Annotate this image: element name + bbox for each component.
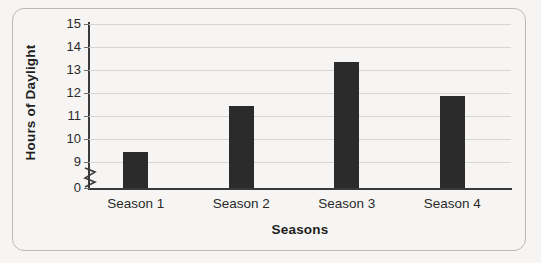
y-tick-label: 0 bbox=[55, 181, 81, 194]
x-tick-label: Season 2 bbox=[186, 196, 296, 212]
bar bbox=[229, 106, 254, 188]
y-tick-label: 15 bbox=[55, 17, 81, 30]
x-axis-title: Seasons bbox=[89, 222, 511, 237]
x-axis-line bbox=[88, 188, 512, 190]
x-tick-label: Season 1 bbox=[81, 196, 191, 212]
y-axis-title: Hours of Daylight bbox=[23, 13, 38, 193]
bar bbox=[123, 152, 148, 188]
y-tick-label: 13 bbox=[55, 63, 81, 76]
y-tick-label: 12 bbox=[55, 86, 81, 99]
bar-chart-figure: Hours of Daylight 15141312111090 Season … bbox=[0, 0, 541, 263]
plot-area bbox=[89, 24, 511, 188]
x-tick-label: Season 3 bbox=[292, 196, 402, 212]
y-tick-label: 14 bbox=[55, 40, 81, 53]
bar bbox=[334, 62, 359, 188]
bar bbox=[440, 96, 465, 188]
x-tick-label: Season 4 bbox=[397, 196, 507, 212]
y-tick-label: 11 bbox=[55, 109, 81, 122]
y-tick-mark bbox=[84, 188, 90, 189]
y-tick-label: 9 bbox=[55, 155, 81, 168]
y-tick-label: 10 bbox=[55, 132, 81, 145]
